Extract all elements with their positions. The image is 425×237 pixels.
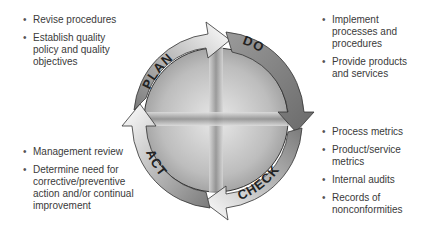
pdca-cycle-diagram: PLAN DO CHECK ACT [0, 0, 425, 237]
